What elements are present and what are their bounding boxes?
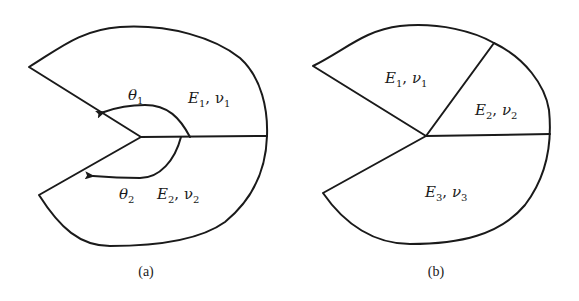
diagram-canvas: θ1 θ2 E1, ν1 E2, ν2 (a) E1, ν1 E2, ν2 E3… (0, 0, 579, 301)
figure-a: θ1 θ2 E1, ν1 E2, ν2 (a) (29, 27, 267, 280)
label-region-3-b: E3, ν3 (424, 183, 467, 203)
label-theta2: θ2 (119, 185, 134, 205)
interface-line-b-diagonal (426, 43, 494, 136)
label-region-bottom-a: E2, ν2 (156, 185, 199, 205)
caption-a: (a) (138, 264, 154, 280)
interface-line-b-horizontal (426, 134, 550, 136)
caption-b: (b) (428, 264, 445, 280)
label-theta1: θ1 (128, 86, 143, 106)
label-region-top-a: E1, ν1 (187, 89, 230, 109)
label-region-2-b: E2, ν2 (474, 101, 517, 121)
interface-line-a (141, 136, 267, 137)
label-region-1-b: E1, ν1 (384, 69, 427, 89)
figure-b: E1, ν1 E2, ν2 E3, ν3 (b) (313, 25, 550, 280)
